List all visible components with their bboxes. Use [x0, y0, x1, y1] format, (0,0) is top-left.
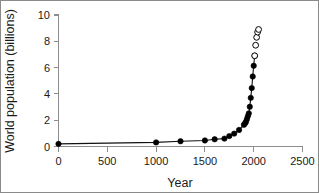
data-points-group	[56, 27, 262, 147]
y-tick-label-8: 8	[44, 35, 50, 47]
data-point-historical	[222, 136, 227, 141]
data-line-group	[59, 56, 255, 144]
y-tick-label-0: 0	[44, 141, 50, 153]
data-point-projection	[253, 42, 259, 48]
data-point-historical	[153, 140, 158, 145]
world-population-chart: 0 2 4 6 8 10 0 500 1000 1500 2000 2500 Y…	[1, 1, 319, 193]
data-point-historical	[212, 137, 217, 142]
data-point-historical	[248, 95, 253, 100]
y-axis-ticks	[54, 15, 59, 147]
data-point-projection	[256, 27, 262, 33]
y-tick-label-10: 10	[38, 9, 50, 21]
chart-figure: 0 2 4 6 8 10 0 500 1000 1500 2000 2500 Y…	[0, 0, 319, 193]
data-point-historical	[202, 138, 207, 143]
series-line-0	[59, 56, 255, 144]
data-point-projection	[252, 53, 258, 59]
data-point-historical	[250, 74, 255, 79]
x-tick-label-2500: 2500	[290, 155, 314, 167]
data-point-historical	[227, 133, 232, 138]
x-tick-label-2000: 2000	[241, 155, 265, 167]
x-tick-label-1000: 1000	[144, 155, 168, 167]
x-axis-title: Year	[167, 176, 192, 190]
y-tick-label-6: 6	[44, 62, 50, 74]
x-axis-ticks	[59, 147, 303, 153]
data-point-historical	[246, 111, 251, 116]
data-point-historical	[178, 139, 183, 144]
x-tick-label-0: 0	[55, 155, 61, 167]
y-axis-title: World population (billions)	[3, 9, 17, 153]
x-tick-label-1500: 1500	[193, 155, 217, 167]
data-point-historical	[249, 85, 254, 90]
data-point-historical	[236, 127, 241, 132]
data-point-historical	[247, 104, 252, 109]
data-point-historical	[251, 63, 256, 68]
y-tick-label-4: 4	[44, 88, 50, 100]
data-point-historical	[56, 141, 61, 146]
x-tick-label-500: 500	[98, 155, 116, 167]
y-tick-label-2: 2	[44, 114, 50, 126]
data-point-historical	[231, 131, 236, 136]
